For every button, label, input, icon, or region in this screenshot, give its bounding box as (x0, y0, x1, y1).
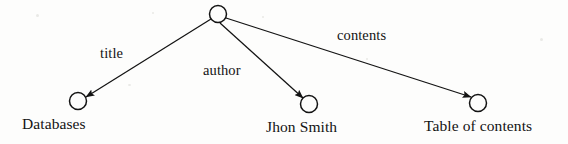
rdf-graph-figure: title author contents Databases Jhon Smi… (0, 0, 568, 144)
node-jhon-smith-circle (301, 96, 318, 113)
node-table-of-contents-circle (470, 95, 487, 112)
edge-label-author: author (203, 63, 241, 78)
edge-author-line (220, 23, 303, 98)
node-databases-circle (70, 93, 87, 110)
node-root-circle (210, 6, 227, 23)
edge-label-contents: contents (337, 28, 386, 43)
edge-group (86, 18, 471, 98)
node-label-databases: Databases (22, 116, 86, 132)
node-group (70, 6, 487, 113)
edge-label-title: title (100, 46, 123, 61)
node-label-table-of-contents: Table of contents (424, 118, 532, 134)
node-label-jhon-smith: Jhon Smith (266, 119, 337, 135)
